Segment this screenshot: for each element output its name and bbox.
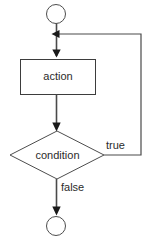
- edge-label-true: true: [106, 139, 125, 151]
- arrowhead-loop-merge: [52, 30, 60, 38]
- end-node: [47, 217, 66, 236]
- edge-label-false: false: [61, 181, 84, 193]
- flowchart-svg: action condition true false: [0, 0, 147, 241]
- start-node: [47, 5, 66, 24]
- condition-node-label: condition: [35, 149, 79, 161]
- arrowhead-into-action: [52, 50, 60, 58]
- arrowhead-into-condition: [52, 123, 60, 132]
- arrowhead-into-end: [52, 207, 60, 216]
- flowchart-canvas: action condition true false: [0, 0, 147, 241]
- action-node-label: action: [43, 70, 72, 82]
